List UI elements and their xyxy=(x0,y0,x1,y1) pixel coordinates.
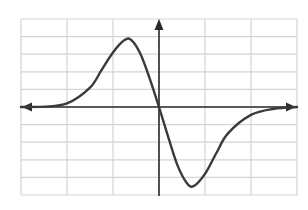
function-plot xyxy=(0,0,308,210)
y-axis-up-arrow-icon xyxy=(155,19,164,30)
